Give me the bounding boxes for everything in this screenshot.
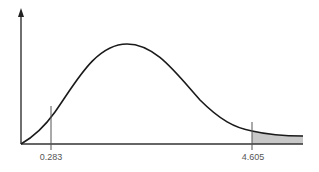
left-critical-label: 0.283 bbox=[40, 152, 63, 162]
chi-square-density-chart bbox=[0, 0, 319, 172]
right-critical-label: 4.605 bbox=[242, 152, 265, 162]
density-curve bbox=[21, 44, 303, 144]
y-axis-arrow-icon bbox=[18, 8, 24, 17]
